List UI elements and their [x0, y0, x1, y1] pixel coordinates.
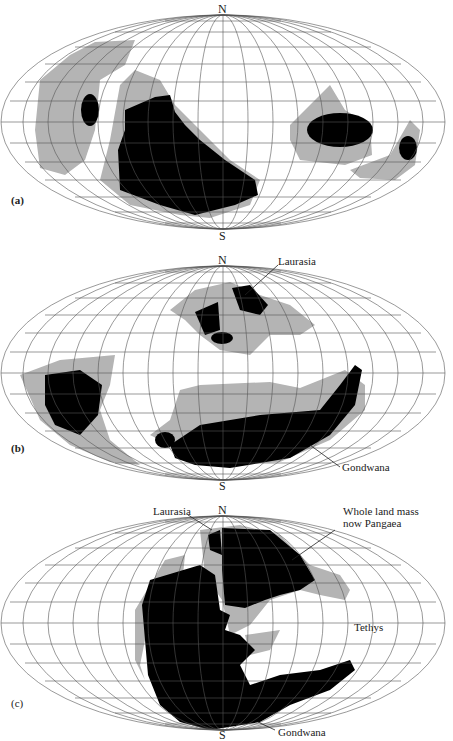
panel-a: N S (a) — [0, 0, 453, 240]
north-pole-label: N — [218, 254, 227, 266]
label-whole-land-mass: Whole land mass — [343, 506, 419, 517]
panel-c: N S (c) Laurasia Whole land mass now Pan… — [0, 490, 453, 741]
map-panel-b — [0, 240, 453, 490]
panel-b: N S (b) Laurasia Gondwana — [0, 240, 453, 490]
north-pole-label: N — [218, 504, 227, 516]
label-laurasia: Laurasia — [278, 256, 316, 267]
label-laurasia: Laurasia — [153, 506, 191, 517]
map-panel-a — [0, 0, 453, 240]
label-tethys: Tethys — [354, 622, 383, 633]
label-now-pangaea: now Pangaea — [343, 518, 401, 529]
north-pole-label: N — [218, 3, 227, 15]
continents-a — [35, 40, 420, 218]
graticule-a — [1, 15, 445, 229]
continents-b — [20, 282, 365, 468]
panel-tag-c: (c) — [11, 698, 23, 709]
label-gondwana: Gondwana — [278, 727, 326, 738]
south-pole-label: S — [219, 729, 226, 741]
panel-tag-b: (b) — [11, 443, 24, 454]
continents-c — [135, 525, 355, 730]
label-gondwana: Gondwana — [342, 462, 390, 473]
graticule-b — [1, 266, 445, 480]
panel-tag-a: (a) — [11, 195, 24, 206]
